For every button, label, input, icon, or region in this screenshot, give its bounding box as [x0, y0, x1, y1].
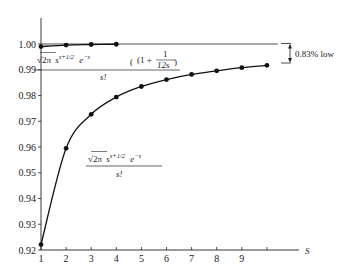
series — [39, 42, 270, 247]
axes — [38, 0, 299, 250]
stirling-chart: 0.920.930.940.950.960.970.980.991.001.02… — [0, 0, 352, 277]
svg-text:(: ( — [130, 57, 133, 67]
data-point — [189, 72, 194, 77]
x-tick-labels: 123456789 — [39, 253, 245, 264]
y-tick-label: 0.99 — [19, 64, 37, 75]
svg-text:s!: s! — [116, 169, 123, 179]
x-tick-label: 9 — [239, 253, 244, 264]
data-point — [114, 42, 119, 47]
svg-text:√2π ss+1/2 e−s: √2π ss+1/2 e−s — [37, 51, 91, 65]
data-point — [164, 77, 169, 82]
svg-text:s!: s! — [100, 72, 107, 82]
x-tick-label: 6 — [164, 253, 169, 264]
svg-text:): ) — [174, 57, 177, 67]
svg-text:12s: 12s — [157, 60, 170, 70]
data-point — [39, 242, 44, 247]
y-tick-label: 0.98 — [19, 90, 37, 101]
x-tick-label: 8 — [214, 253, 219, 264]
data-point — [214, 68, 219, 73]
data-point — [89, 42, 94, 47]
x-tick-label: 2 — [64, 253, 69, 264]
data-point — [39, 44, 44, 49]
y-tick-label: 0.97 — [19, 116, 37, 127]
data-point — [265, 63, 270, 68]
svg-text:√2π ss+1/2 e−s: √2π ss+1/2 e−s — [88, 150, 142, 164]
x-tick-label: 7 — [189, 253, 194, 264]
x-tick-label: 1 — [39, 253, 44, 264]
data-point — [139, 84, 144, 89]
data-point — [239, 65, 244, 70]
data-point — [89, 112, 94, 117]
svg-text:1: 1 — [163, 49, 168, 59]
bracket-label: 0.83% low — [295, 49, 334, 59]
percent-low-bracket: 0.83% low — [281, 44, 334, 64]
y-tick-label: 0.93 — [19, 219, 37, 230]
upper-formula-label: √2π ss+1/2 e−s ( (1 + 1 12s ) s! — [34, 49, 180, 82]
y-tick-label: 0.96 — [19, 142, 37, 153]
y-tick-label: 0.95 — [19, 167, 37, 178]
y-tick-label: 0.92 — [19, 245, 37, 256]
data-point — [114, 95, 119, 100]
x-tick-label: 5 — [139, 253, 144, 264]
series-line-1 — [41, 65, 267, 244]
lower-formula-label: √2π ss+1/2 e−s s! — [86, 150, 162, 179]
y-tick-label: 0.94 — [19, 193, 37, 204]
data-point — [64, 146, 69, 151]
svg-text:(1 +: (1 + — [137, 55, 152, 65]
x-tick-label: 4 — [114, 253, 119, 264]
y-tick-labels: 0.920.930.940.950.960.970.980.991.001.02 — [19, 0, 37, 256]
x-tick-label: 3 — [89, 253, 94, 264]
data-point — [64, 43, 69, 48]
series-line-0 — [41, 44, 116, 46]
y-tick-label: 1.00 — [19, 39, 37, 50]
x-axis-label: S — [305, 246, 310, 256]
